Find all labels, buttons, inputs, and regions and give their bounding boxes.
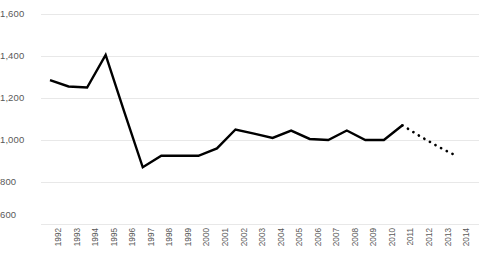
series-line-forecast xyxy=(402,125,458,157)
x-tick-label: 2005 xyxy=(295,228,304,246)
x-tick-label-text: 2012 xyxy=(425,228,434,246)
x-tick-label: 1997 xyxy=(147,228,156,246)
x-tick-label-text: 2013 xyxy=(444,228,453,246)
x-tick-label: 1999 xyxy=(184,228,193,246)
x-tick-label-text: 1996 xyxy=(128,228,137,246)
y-tick-label: 600 xyxy=(0,209,36,220)
y-tick-label: 800 xyxy=(0,176,36,187)
x-tick-label: 1992 xyxy=(54,228,63,246)
x-tick-label: 2006 xyxy=(314,228,323,246)
x-tick-label-text: 1994 xyxy=(91,228,100,246)
line-chart: 1,600 1,400 1,200 1,000 800 600 19921993… xyxy=(0,0,479,268)
x-tick-label-text: 2001 xyxy=(221,228,230,246)
y-tick-label: 1,000 xyxy=(0,134,36,145)
x-tick-label: 2001 xyxy=(221,228,230,246)
x-tick-label-text: 2006 xyxy=(314,228,323,246)
x-tick-label-text: 1999 xyxy=(184,228,193,246)
x-tick-label: 1996 xyxy=(128,228,137,246)
x-tick-label-text: 2000 xyxy=(202,228,211,246)
x-tick-label-text: 2010 xyxy=(388,228,397,246)
x-tick-label: 2013 xyxy=(444,228,453,246)
x-tick-label-text: 1993 xyxy=(73,228,82,246)
x-tick-label: 1994 xyxy=(91,228,100,246)
x-tick-label: 2009 xyxy=(369,228,378,246)
x-tick-label: 2012 xyxy=(425,228,434,246)
x-tick-label: 2010 xyxy=(388,228,397,246)
x-tick-label-text: 2005 xyxy=(295,228,304,246)
x-tick-label-text: 2007 xyxy=(332,228,341,246)
x-tick-label-text: 2014 xyxy=(462,228,471,246)
x-tick-label-text: 2002 xyxy=(240,228,249,246)
x-tick-label: 2014 xyxy=(462,228,471,246)
x-tick-label: 2000 xyxy=(202,228,211,246)
x-tick-label: 2008 xyxy=(351,228,360,246)
x-tick-label: 1998 xyxy=(165,228,174,246)
x-tick-label-text: 2004 xyxy=(277,228,286,246)
x-tick-label: 2011 xyxy=(406,228,415,246)
x-tick-label: 2007 xyxy=(332,228,341,246)
y-tick-label: 1,400 xyxy=(0,50,36,61)
y-tick-label: 1,200 xyxy=(0,92,36,103)
x-tick-label: 2002 xyxy=(240,228,249,246)
x-tick-label-text: 2011 xyxy=(406,228,415,246)
x-tick-label-text: 1992 xyxy=(54,228,63,246)
plot-area xyxy=(41,0,479,225)
y-tick-label: 1,600 xyxy=(0,8,36,19)
x-tick-label-text: 1997 xyxy=(147,228,156,246)
series-line-actual xyxy=(50,55,402,167)
x-tick-label: 1995 xyxy=(110,228,119,246)
x-tick-label-text: 2009 xyxy=(369,228,378,246)
x-tick-label-text: 2003 xyxy=(258,228,267,246)
x-tick-label-text: 1995 xyxy=(110,228,119,246)
x-tick-label-text: 2008 xyxy=(351,228,360,246)
x-tick-label: 1993 xyxy=(73,228,82,246)
x-tick-label: 2004 xyxy=(277,228,286,246)
x-tick-label-text: 1998 xyxy=(165,228,174,246)
x-tick-label: 2003 xyxy=(258,228,267,246)
series-canvas xyxy=(41,0,479,225)
